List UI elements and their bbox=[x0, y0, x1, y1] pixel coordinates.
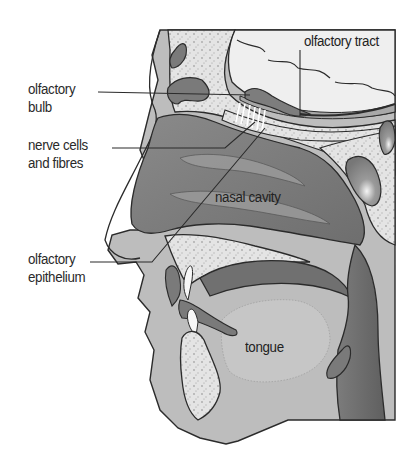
label-olfactory-epithelium-line1: olfactory bbox=[28, 250, 85, 268]
olfactory-anatomy-diagram: olfactory bulb nerve cells and fibres ol… bbox=[0, 0, 420, 466]
label-nerve-cells-and-fibres: nerve cells and fibres bbox=[28, 136, 88, 172]
label-nerve-cells-line2: and fibres bbox=[28, 154, 88, 172]
label-olfactory-epithelium-line2: epithelium bbox=[28, 268, 85, 286]
label-nasal-cavity: nasal cavity bbox=[215, 188, 281, 206]
label-olfactory-bulb: olfactory bulb bbox=[28, 80, 75, 116]
label-nerve-cells-line1: nerve cells bbox=[28, 136, 88, 154]
label-tongue: tongue bbox=[245, 338, 284, 356]
head-cross-section bbox=[0, 0, 420, 466]
label-olfactory-bulb-line1: olfactory bbox=[28, 80, 75, 98]
label-olfactory-bulb-line2: bulb bbox=[28, 98, 75, 116]
sphenoid-sinus-2 bbox=[379, 121, 395, 154]
label-olfactory-epithelium: olfactory epithelium bbox=[28, 250, 85, 286]
label-olfactory-tract: olfactory tract bbox=[304, 32, 379, 50]
